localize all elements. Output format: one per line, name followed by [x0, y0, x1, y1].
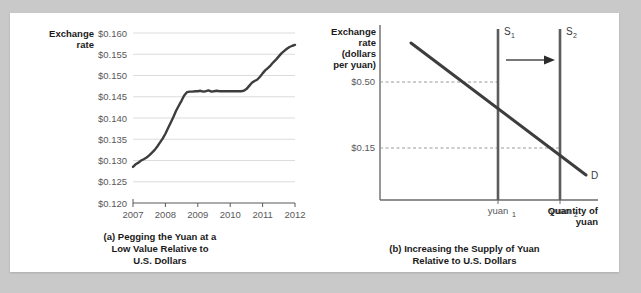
panel-a-ytick-label: $0.150 [98, 70, 127, 81]
panel-a-chart: Exchange rate $0.160$0.155$0.150$0.145$0… [10, 13, 310, 228]
panel-b-supply-label-1: S [504, 26, 511, 37]
panel-b-xtick-label-1: yuan [488, 205, 509, 216]
panel-a-ytick-label: $0.155 [98, 49, 127, 60]
panel-a-ytick-labels: $0.160$0.155$0.150$0.145$0.140$0.135$0.1… [98, 28, 127, 209]
panel-b-supply-label-2-sub: 2 [573, 32, 577, 39]
panel-b-supply-demand: Exchange rate (dollars per yuan) $0.50 $… [310, 13, 619, 272]
panel-a-caption-line2: Low Value Relative to [10, 243, 310, 255]
panel-a-data-line [133, 45, 295, 167]
panel-a-xtick-label: 2012 [284, 209, 305, 220]
panel-a-xtick-label: 2009 [187, 209, 208, 220]
panel-a-xtick-label: 2007 [122, 209, 143, 220]
panel-a-ytick-label: $0.120 [98, 198, 127, 209]
panel-a-pegging-yuan: Exchange rate $0.160$0.155$0.150$0.145$0… [10, 13, 310, 272]
panel-a-yaxis-title-line1: Exchange [49, 28, 94, 39]
panel-b-ytick-1: $0.15 [351, 142, 375, 153]
panel-b-yaxis-title-line2: rate [359, 37, 376, 48]
panel-b-xaxis-title-line1: Quantity of [548, 205, 599, 216]
panel-a-ytick-label: $0.145 [98, 91, 127, 102]
panel-b-caption-line1: (b) Increasing the Supply of Yuan [310, 243, 619, 255]
panel-b-yaxis-title-line3: (dollars [342, 48, 376, 59]
panel-b-shift-arrow-icon [506, 56, 555, 65]
panel-b-yaxis-title-line1: Exchange [331, 26, 376, 37]
panel-a-ytick-label: $0.160 [98, 28, 127, 39]
panel-b-caption-line2: Relative to U.S. Dollars [310, 255, 619, 267]
panel-a-xtick-label: 2010 [220, 209, 241, 220]
panel-a-ytick-label: $0.140 [98, 113, 127, 124]
panel-a-ytick-label: $0.135 [98, 134, 127, 145]
panel-b-supply-label-2: S [566, 26, 573, 37]
panel-b-xtick-label-1-sub: 1 [512, 211, 516, 218]
panel-a-xtick-label: 2008 [155, 209, 176, 220]
panel-b-ytick-0: $0.50 [351, 76, 375, 87]
panel-a-yaxis-title-line2: rate [77, 39, 94, 50]
panel-b-yaxis-title-line4: per yuan) [333, 59, 376, 70]
panel-b-xaxis-title-line2: yuan [576, 216, 598, 227]
panel-a-ytick-label: $0.130 [98, 155, 127, 166]
panel-b-caption: (b) Increasing the Supply of Yuan Relati… [310, 243, 619, 267]
panel-a-ytick-label: $0.125 [98, 176, 127, 187]
panel-b-demand-label: D [591, 170, 598, 181]
panel-a-xtick-label: 2011 [252, 209, 272, 220]
panel-a-caption-line3: U.S. Dollars [10, 255, 310, 267]
figure-card: Exchange rate $0.160$0.155$0.150$0.145$0… [10, 13, 619, 272]
panel-b-chart: Exchange rate (dollars per yuan) $0.50 $… [310, 13, 619, 241]
panel-a-caption-line1: (a) Pegging the Yuan at a [10, 231, 310, 243]
panel-a-xtick-labels: 200720082009201020112012 [122, 203, 305, 220]
panel-b-supply-label-1-sub: 1 [511, 32, 515, 39]
panel-a-caption: (a) Pegging the Yuan at a Low Value Rela… [10, 231, 310, 267]
panel-a-gridlines [133, 33, 295, 182]
